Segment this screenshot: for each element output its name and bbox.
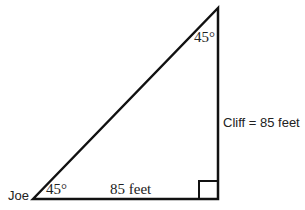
- triangle: [33, 8, 218, 199]
- vertex-label-joe: Joe: [8, 188, 29, 203]
- angle-label-bottom: 45°: [46, 181, 67, 198]
- cliff-label: Cliff = 85 feet: [223, 115, 300, 130]
- base-label: 85 feet: [110, 181, 151, 198]
- triangle-diagram: [0, 0, 305, 210]
- right-angle-marker: [199, 181, 218, 199]
- angle-label-top: 45°: [194, 29, 215, 46]
